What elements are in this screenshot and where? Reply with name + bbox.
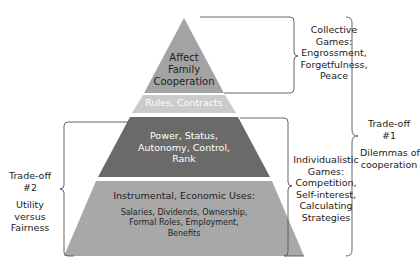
label-line: Rules, Contracts — [134, 97, 234, 109]
label-line: Competition, — [290, 177, 362, 189]
layer-top-label: Affect Family Cooperation — [134, 52, 234, 89]
label-line: Utility — [2, 199, 58, 211]
label-line: #1 — [360, 130, 418, 142]
label-line: Engrossment, — [300, 47, 368, 59]
label-line: Forgetfulness, — [300, 59, 368, 71]
layer-rules-label: Rules, Contracts — [134, 97, 234, 109]
layer-instrumental-body: Salaries, Dividends, Ownership, Formal R… — [84, 208, 284, 239]
individualistic-games-label: Individualistic Games: Competition, Self… — [290, 154, 362, 223]
label-line: Games: — [290, 166, 362, 178]
label-line: Cooperation — [134, 76, 234, 88]
label-line: Power, Status, — [104, 130, 264, 142]
collective-games-label: Collective Games: Engrossment, Forgetful… — [300, 24, 368, 82]
layer-power-label: Power, Status, Autonomy, Control, Rank — [104, 130, 264, 165]
label-line: Trade-off — [2, 170, 58, 182]
label-line: cooperation — [360, 159, 418, 171]
label-line: Fairness — [2, 222, 58, 234]
label-line: versus — [2, 211, 58, 223]
label-line: Dilemmas of — [360, 147, 418, 159]
label-line: Rank — [104, 153, 264, 165]
label-line: Strategies — [290, 212, 362, 224]
label-line: Salaries, Dividends, Ownership, — [84, 208, 284, 218]
tradeoff-1-label: Trade-off #1 Dilemmas of cooperation — [360, 118, 418, 170]
label-line: Benefits — [84, 229, 284, 239]
label-line: Affect — [134, 52, 234, 64]
label-line: Trade-off — [360, 118, 418, 130]
label-line: Calculating — [290, 200, 362, 212]
label-line: #2 — [2, 182, 58, 194]
tradeoff-2-label: Trade-off #2 Utility versus Fairness — [2, 170, 58, 234]
label-line: Formal Roles, Employment, — [84, 218, 284, 228]
label-line: Games: — [300, 36, 368, 48]
label-line: Family — [134, 64, 234, 76]
label-line: Collective — [300, 24, 368, 36]
layer-instrumental-heading: Instrumental, Economic Uses: — [84, 190, 284, 202]
label-line: Peace — [300, 70, 368, 82]
label-line: Self-interest, — [290, 189, 362, 201]
label-line: Autonomy, Control, — [104, 142, 264, 154]
label-line: Individualistic — [290, 154, 362, 166]
